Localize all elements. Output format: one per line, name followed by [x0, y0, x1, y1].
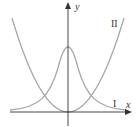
y-axis-arrow-icon	[65, 2, 71, 9]
curve-two-label: II	[111, 18, 118, 29]
graph: y x II I	[0, 0, 140, 127]
y-axis-label: y	[74, 1, 80, 12]
x-axis-label: x	[125, 99, 131, 110]
curve-one-label: I	[113, 98, 116, 109]
